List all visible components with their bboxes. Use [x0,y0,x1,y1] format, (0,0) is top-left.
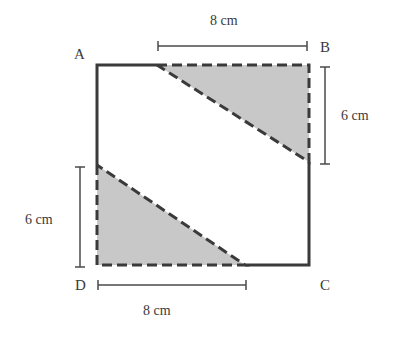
square-solid-edge-bottom-right [245,162,309,265]
vertex-label-a: A [74,47,85,62]
dimension-label-top: 8 cm [210,14,238,28]
square-solid-edge-top-left [97,65,157,165]
square-diagram [0,0,401,341]
dimension-line-left [75,167,85,267]
vertex-label-b: B [320,40,330,55]
dimension-label-right: 6 cm [341,109,369,123]
dimension-line-top [158,41,307,51]
dimension-label-bottom: 8 cm [143,304,171,318]
vertex-label-c: C [320,278,330,293]
dimension-label-left: 6 cm [25,213,53,227]
dimension-line-right [320,67,330,164]
dimension-line-bottom [98,280,246,290]
vertex-label-d: D [75,278,86,293]
